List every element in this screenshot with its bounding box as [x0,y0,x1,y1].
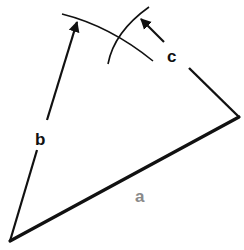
side-c-line [189,68,239,117]
triangle-diagram: b c a [0,0,244,250]
arc-b [62,14,153,61]
side-b-line-upper [47,22,77,120]
side-c-arrow [141,19,164,42]
label-c: c [167,47,176,66]
label-b: b [35,130,45,149]
label-a: a [135,187,145,206]
